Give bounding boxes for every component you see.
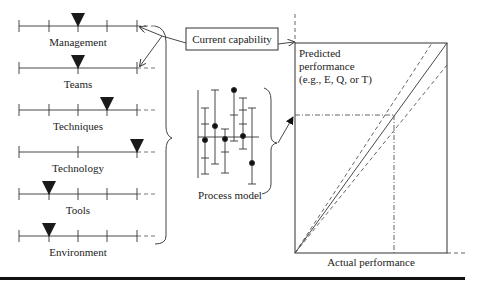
- rating-marker-icon: [100, 97, 114, 111]
- bottom-rule: [0, 277, 465, 280]
- arrow-model-to-chart: [278, 117, 293, 143]
- factor-label: Techniques: [53, 120, 103, 132]
- prediction-chart: Predicted performance (e.g., E, Q, or T)…: [295, 14, 465, 268]
- y-axis-label-line1: Predicted: [299, 47, 341, 59]
- arrow-to-teams: [140, 36, 162, 66]
- process-model-brace: [262, 88, 277, 194]
- factor-scale-techniques: Techniques: [19, 97, 155, 132]
- rating-marker-icon: [42, 181, 56, 195]
- rating-marker-icon: [71, 55, 85, 69]
- factors-brace: [155, 26, 172, 244]
- factor-label: Tools: [66, 204, 90, 216]
- rating-marker-icon: [42, 223, 56, 237]
- factor-scale-technology: Technology: [19, 139, 155, 174]
- rating-marker-icon: [130, 139, 144, 153]
- current-capability-box: Current capability: [186, 28, 278, 50]
- process-model-label: Process model: [198, 189, 262, 201]
- factor-scale-management: Management: [19, 13, 155, 48]
- factor-label: Technology: [52, 162, 104, 174]
- x-axis-label: Actual performance: [327, 256, 415, 268]
- y-axis-label-line3: (e.g., E, Q, or T): [299, 73, 372, 86]
- factor-label: Management: [49, 36, 106, 48]
- process-model-plot: [198, 87, 259, 184]
- arrow-to-management: [140, 27, 162, 36]
- factor-scales: ManagementTeamsTechniquesTechnologyTools…: [19, 13, 155, 258]
- factor-scale-tools: Tools: [19, 181, 155, 216]
- factor-label: Environment: [49, 246, 106, 258]
- current-capability-label: Current capability: [192, 33, 272, 45]
- factor-scale-environment: Environment: [19, 223, 155, 258]
- y-axis-label-line2: performance: [299, 60, 355, 72]
- factor-label: Teams: [64, 78, 93, 90]
- estimation-diagram: ManagementTeamsTechniquesTechnologyTools…: [0, 0, 478, 287]
- rating-marker-icon: [71, 13, 85, 27]
- arrow-capability-to-chart: [278, 42, 294, 44]
- factor-scale-teams: Teams: [19, 55, 155, 90]
